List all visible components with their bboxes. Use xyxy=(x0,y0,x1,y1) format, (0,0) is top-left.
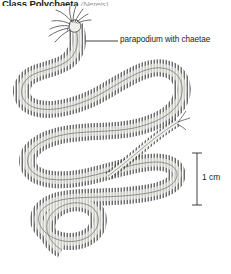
scale-bar xyxy=(192,153,202,205)
callout-label: parapodium with chaetae xyxy=(120,35,210,44)
scale-bar-label: 1 cm xyxy=(202,172,220,182)
polychaeta-figure: Class Polychaeta(Nereis) xyxy=(0,0,231,274)
